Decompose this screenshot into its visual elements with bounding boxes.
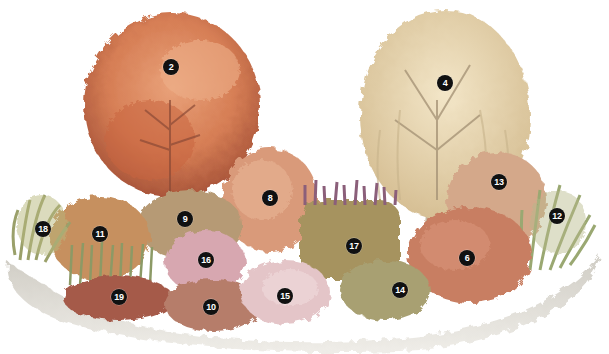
plant-number-marker-10: 10 — [203, 299, 219, 315]
plant-number-marker-18: 18 — [35, 221, 51, 237]
plant-number-marker-4: 4 — [437, 75, 453, 91]
plant-number-marker-19: 19 — [111, 289, 127, 305]
plant-number-marker-13: 13 — [491, 174, 507, 190]
plant-number-marker-14: 14 — [392, 282, 408, 298]
plant-number-marker-2: 2 — [163, 59, 179, 75]
plant-number-marker-9: 9 — [177, 211, 193, 227]
plant-number-marker-11: 11 — [92, 226, 108, 242]
plant-number-marker-12: 12 — [549, 208, 565, 224]
plant-number-marker-8: 8 — [262, 190, 278, 206]
plant-number-marker-17: 17 — [346, 238, 362, 254]
plant-number-marker-6: 6 — [459, 250, 475, 266]
garden-illustration — [0, 0, 609, 354]
plant-number-marker-16: 16 — [198, 252, 214, 268]
plant-14 — [340, 260, 430, 320]
plant-number-marker-15: 15 — [277, 288, 293, 304]
